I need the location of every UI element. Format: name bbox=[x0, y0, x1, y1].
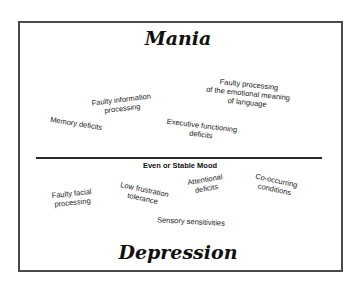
depression-title: Depression bbox=[118, 241, 237, 263]
mania-title: Mania bbox=[145, 27, 212, 49]
even-stable-mood-label: Even or Stable Mood bbox=[143, 161, 217, 170]
mood-divider-line bbox=[36, 157, 322, 159]
diagram-frame bbox=[18, 21, 343, 272]
